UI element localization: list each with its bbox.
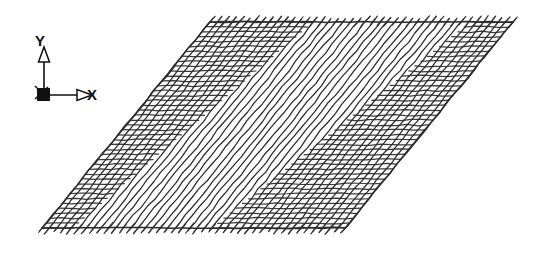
figure-canvas: Y X Z	[0, 0, 548, 253]
x-axis-label: X	[87, 86, 97, 103]
y-axis-label: Y	[35, 32, 45, 49]
z-axis-label: Z	[42, 91, 47, 98]
coordinate-axis-triad: Y X Z	[0, 0, 548, 253]
y-axis-arrow-icon	[39, 47, 50, 62]
